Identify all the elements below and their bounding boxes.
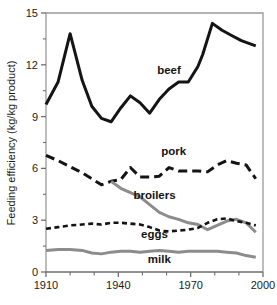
x-axis-tick-label: 2000 bbox=[251, 279, 275, 291]
series-label-pork: pork bbox=[161, 145, 187, 157]
x-axis-tick-label: 1970 bbox=[178, 279, 202, 291]
y-axis-tick-label: 9 bbox=[32, 111, 38, 123]
series-line-pork bbox=[46, 155, 256, 184]
series-label-eggs: eggs bbox=[141, 228, 168, 240]
y-axis-tick-label: 0 bbox=[32, 266, 38, 278]
y-axis-tick-label: 3 bbox=[32, 214, 38, 226]
series-layer bbox=[46, 23, 256, 257]
y-axis-tick-label: 12 bbox=[26, 59, 38, 71]
series-label-beef: beef bbox=[157, 64, 181, 76]
y-axis-tick-label: 6 bbox=[32, 162, 38, 174]
x-axis-tick-label: 1910 bbox=[34, 279, 58, 291]
y-axis-tick-label: 15 bbox=[26, 7, 38, 19]
chart-figure: 036912151910194019702000 beefporkbroiler… bbox=[0, 0, 277, 305]
line-chart: 036912151910194019702000 beefporkbroiler… bbox=[0, 0, 277, 305]
series-label-layer: beefporkbroilerseggsmilk bbox=[133, 64, 186, 264]
y-axis-title: Feeding efficiency (kg/kg product) bbox=[5, 61, 17, 226]
series-label-broilers: broilers bbox=[133, 189, 175, 201]
series-label-milk: milk bbox=[148, 253, 172, 265]
x-axis-tick-label: 1940 bbox=[106, 279, 130, 291]
series-line-beef bbox=[46, 23, 256, 121]
